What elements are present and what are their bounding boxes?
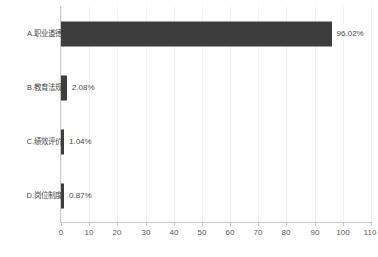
x-tick — [202, 222, 203, 226]
value-label-d: 0.87% — [69, 191, 92, 201]
value-label-b: 2.08% — [72, 83, 95, 93]
x-tick — [286, 222, 287, 226]
category-label-a: A.职业道德 — [27, 29, 62, 39]
x-tick — [174, 222, 175, 226]
x-tick — [343, 222, 344, 226]
category-label-b: B.教育法规 — [27, 83, 62, 93]
gridline — [371, 6, 372, 222]
bar-c — [61, 130, 64, 155]
x-tick-label-110: 110 — [364, 228, 377, 238]
x-tick-label-10: 10 — [85, 228, 94, 238]
x-tick-label-30: 30 — [142, 228, 151, 238]
bar-a — [61, 22, 332, 47]
x-tick-label-80: 80 — [282, 228, 291, 238]
x-tick-label-70: 70 — [254, 228, 263, 238]
x-tick-label-90: 90 — [311, 228, 320, 238]
bar-b — [61, 76, 67, 101]
x-tick — [371, 222, 372, 226]
x-tick — [146, 222, 147, 226]
x-tick — [315, 222, 316, 226]
x-tick-label-100: 100 — [336, 228, 349, 238]
x-tick — [61, 222, 62, 226]
x-tick-label-50: 50 — [198, 228, 207, 238]
bar-chart: A.职业道德 B.教育法规 C.绩效评价 D.岗位制度 96.02% 2.08%… — [0, 0, 378, 257]
x-tick-label-40: 40 — [170, 228, 179, 238]
value-label-c: 1.04% — [69, 137, 92, 147]
x-tick-label-0: 0 — [59, 228, 63, 238]
category-label-c: C.绩效评价 — [27, 137, 63, 147]
bar-d — [61, 184, 64, 209]
value-label-a: 96.02% — [337, 29, 364, 39]
x-tick — [258, 222, 259, 226]
x-tick-label-60: 60 — [226, 228, 235, 238]
x-tick — [117, 222, 118, 226]
x-tick — [230, 222, 231, 226]
x-axis-line — [60, 222, 371, 223]
x-tick-label-20: 20 — [113, 228, 122, 238]
x-tick — [89, 222, 90, 226]
category-label-d: D.岗位制度 — [27, 191, 63, 201]
